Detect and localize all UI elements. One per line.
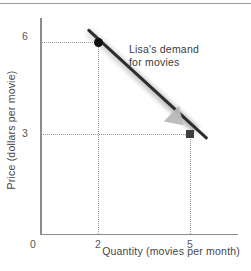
top-divider-rule bbox=[0, 3, 251, 4]
x-axis-line bbox=[40, 234, 238, 236]
data-point-quantity-2-price-6 bbox=[94, 38, 103, 47]
x-axis-tick-0: 0 bbox=[30, 238, 36, 250]
annotation-line-1: Lisa's demand bbox=[129, 43, 199, 56]
data-point-quantity-5-price-3 bbox=[186, 130, 194, 138]
guide-horizontal-price-6 bbox=[41, 42, 99, 43]
x-axis-title: Quantity (movies per month) bbox=[102, 245, 240, 257]
x-axis-tick-2: 2 bbox=[95, 238, 101, 250]
guide-horizontal-price-3 bbox=[41, 134, 190, 135]
y-axis-tick-6: 6 bbox=[22, 30, 28, 42]
demand-curve-annotation: Lisa's demand for movies bbox=[129, 43, 199, 68]
y-axis-tick-3: 3 bbox=[22, 127, 28, 139]
guide-vertical-quantity-5 bbox=[190, 134, 191, 234]
demand-curve-figure: 6 3 0 2 5 Price (dollars per movie) Quan… bbox=[0, 0, 251, 271]
guide-vertical-quantity-2 bbox=[98, 42, 99, 234]
y-axis-title: Price (dollars per movie) bbox=[5, 71, 17, 190]
y-axis-line bbox=[40, 18, 42, 235]
annotation-line-2: for movies bbox=[129, 56, 199, 69]
